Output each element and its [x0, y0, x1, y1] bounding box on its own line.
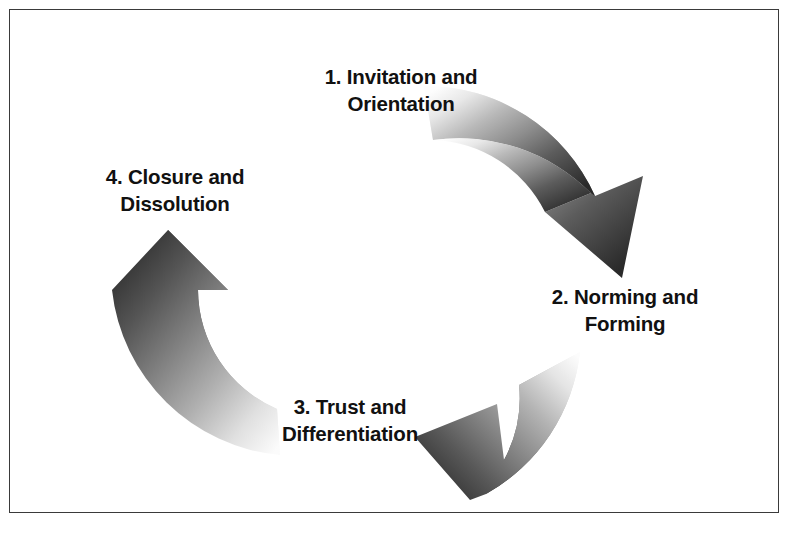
stage-label-closure-and-dissolution: 4. Closure and Dissolution — [70, 163, 280, 217]
diagram-page: 1. Invitation and Orientation 2. Norming… — [0, 0, 800, 536]
stage-label-invitation-and-orientation: 1. Invitation and Orientation — [296, 63, 506, 117]
stage-label-norming-and-forming: 2. Norming and Forming — [520, 283, 730, 337]
stage-label-trust-and-differentiation: 3. Trust and Differentiation — [250, 393, 450, 447]
